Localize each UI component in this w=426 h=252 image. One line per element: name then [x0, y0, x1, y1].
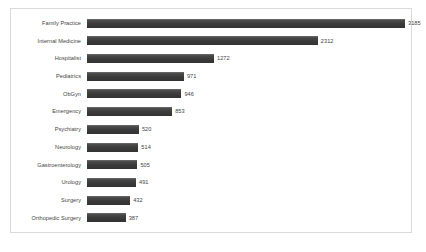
bar-category-label: Urology — [11, 179, 87, 185]
bar-row: Hospitalist1272 — [11, 50, 407, 66]
bar[interactable] — [87, 36, 318, 45]
bar-value-label: 505 — [137, 162, 149, 168]
bar-row: Internal Medicine2312 — [11, 33, 407, 49]
bar-value-label: 946 — [181, 91, 193, 97]
bar-track: 514 — [87, 139, 407, 155]
bar-category-label: Family Practice — [11, 20, 87, 26]
bar-track: 520 — [87, 121, 407, 137]
bar-row: Orthopedic Surgery387 — [11, 210, 407, 226]
bar-row: Family Practice3185 — [11, 15, 407, 31]
bar-category-label: Internal Medicine — [11, 38, 87, 44]
bar-category-label: Orthopedic Surgery — [11, 215, 87, 221]
bar-category-label: ObGyn — [11, 91, 87, 97]
bar-track: 505 — [87, 157, 407, 173]
bar[interactable] — [87, 213, 126, 222]
bar[interactable] — [87, 54, 214, 63]
bar-category-label: Neurology — [11, 144, 87, 150]
bar-row: Gastroenterology505 — [11, 157, 407, 173]
bar-track: 491 — [87, 174, 407, 190]
bar-category-label: Psychiatry — [11, 126, 87, 132]
bar-value-label: 3185 — [405, 20, 421, 26]
bar[interactable] — [87, 72, 184, 81]
bar-value-label: 514 — [138, 144, 150, 150]
bar-track: 971 — [87, 68, 407, 84]
bar-row: ObGyn946 — [11, 86, 407, 102]
chart-plot-area: Family Practice3185Internal Medicine2312… — [11, 9, 411, 232]
bar-row: Surgery432 — [11, 192, 407, 208]
bar-track: 1272 — [87, 50, 407, 66]
bar-category-label: Hospitalist — [11, 55, 87, 61]
bar[interactable] — [87, 19, 405, 28]
bar-value-label: 432 — [130, 197, 142, 203]
bar[interactable] — [87, 160, 137, 169]
bar[interactable] — [87, 125, 139, 134]
bar-value-label: 387 — [126, 215, 138, 221]
bar[interactable] — [87, 89, 181, 98]
bar-track: 853 — [87, 104, 407, 120]
bar-value-label: 520 — [139, 126, 151, 132]
bar-row: Emergency853 — [11, 104, 407, 120]
bar-track: 3185 — [87, 15, 421, 31]
bar-category-label: Surgery — [11, 197, 87, 203]
bar-track: 432 — [87, 192, 407, 208]
bar[interactable] — [87, 196, 130, 205]
bar-category-label: Pediatrics — [11, 73, 87, 79]
bar[interactable] — [87, 107, 172, 116]
bar-value-label: 853 — [172, 108, 184, 114]
bar-value-label: 1272 — [214, 55, 230, 61]
bar[interactable] — [87, 178, 136, 187]
bar-row: Urology491 — [11, 174, 407, 190]
bar-value-label: 491 — [136, 179, 148, 185]
bar-row: Pediatrics971 — [11, 68, 407, 84]
chart-frame: Family Practice3185Internal Medicine2312… — [10, 8, 412, 233]
bar-track: 387 — [87, 210, 407, 226]
bar-value-label: 2312 — [318, 38, 334, 44]
bar-value-label: 971 — [184, 73, 196, 79]
bar[interactable] — [87, 143, 138, 152]
bar-row: Neurology514 — [11, 139, 407, 155]
bar-category-label: Gastroenterology — [11, 162, 87, 168]
bar-track: 2312 — [87, 33, 407, 49]
bar-category-label: Emergency — [11, 108, 87, 114]
bar-track: 946 — [87, 86, 407, 102]
bar-row: Psychiatry520 — [11, 121, 407, 137]
